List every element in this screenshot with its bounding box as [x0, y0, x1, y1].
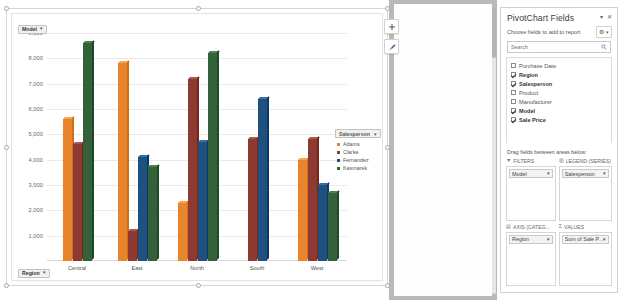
filters-area-icon: ▼ — [506, 158, 511, 163]
bar[interactable] — [188, 79, 197, 261]
field-label: Manufacturer — [519, 99, 552, 105]
area-field-pill[interactable]: Model▾ — [509, 169, 553, 178]
field-checkbox[interactable] — [511, 90, 516, 95]
field-checkbox[interactable] — [511, 99, 516, 104]
field-list-item[interactable]: Model — [507, 106, 611, 115]
bar-face — [83, 43, 92, 261]
resize-handle-middle-right[interactable] — [385, 145, 390, 150]
bar[interactable] — [208, 53, 217, 261]
bar[interactable] — [148, 167, 157, 261]
y-axis-tick-label: 6,000 — [29, 106, 44, 112]
pane-subtitle-text: Choose fields to add to report — [507, 29, 580, 35]
resize-handle-bottom-right[interactable] — [385, 283, 390, 288]
field-checkbox[interactable] — [511, 81, 516, 86]
bar[interactable] — [328, 193, 337, 261]
minimize-icon[interactable]: ▾ — [600, 14, 603, 20]
y-axis-tick-label: 7,000 — [29, 81, 44, 87]
y-axis-tick-label: 1,000 — [29, 233, 44, 239]
area-field-pill-label: Salesperson — [565, 171, 595, 177]
chevron-down-icon: ▾ — [603, 171, 606, 176]
chart-filter-button-region[interactable]: Region ▾ — [18, 269, 50, 278]
pivotchart-fields-pane: PivotChart Fields ▾ ✕ Choose fields to a… — [500, 7, 618, 293]
bar-face — [198, 142, 207, 261]
bar[interactable] — [318, 185, 327, 261]
resize-handle-bottom-left[interactable] — [4, 283, 9, 288]
bar[interactable] — [298, 160, 307, 261]
search-wrapper — [501, 41, 617, 57]
area-values[interactable]: ΣVALUESSum of Sale P...▾ — [559, 224, 612, 287]
resize-handle-top-center[interactable] — [196, 6, 201, 11]
chart-styles-button[interactable] — [384, 39, 399, 54]
chart-filter-region-label: Region — [22, 271, 40, 276]
bar[interactable] — [308, 139, 317, 261]
bar[interactable] — [258, 99, 267, 261]
bar-face — [73, 144, 82, 261]
x-axis-tick-label: South — [250, 265, 265, 271]
bar[interactable] — [73, 144, 82, 261]
field-list: Purchase DateRegionSalespersonProductMan… — [506, 57, 612, 143]
field-checkbox[interactable] — [511, 72, 516, 77]
area-legend[interactable]: ▥LEGEND (SERIES)Salesperson▾ — [559, 158, 612, 221]
pane-tools-button[interactable]: ⚙ ▾ — [596, 26, 612, 38]
area-drop-zone[interactable]: Model▾ — [506, 166, 556, 221]
bar[interactable] — [198, 142, 207, 261]
bar[interactable] — [248, 139, 257, 261]
field-list-item[interactable]: Sale Price — [507, 115, 611, 124]
field-checkbox[interactable] — [511, 63, 516, 68]
field-list-item[interactable]: Manufacturer — [507, 97, 611, 106]
chart-elements-button[interactable] — [384, 19, 399, 34]
bar[interactable] — [118, 63, 127, 261]
legend-item-label: Kasmarek — [343, 165, 367, 171]
field-list-item[interactable]: Salesperson — [507, 79, 611, 88]
field-list-item[interactable]: Purchase Date — [507, 61, 611, 70]
resize-handle-top-left[interactable] — [4, 6, 9, 11]
bar-face — [63, 119, 72, 261]
bar-side — [157, 164, 159, 260]
chart-float-buttons — [384, 19, 399, 54]
field-checkbox[interactable] — [511, 117, 516, 122]
field-list-item[interactable]: Region — [507, 70, 611, 79]
bar[interactable] — [128, 231, 137, 261]
bar[interactable] — [178, 203, 187, 261]
legend-filter-button-salesperson[interactable]: Salesperson ▾ — [335, 129, 381, 138]
area-field-pill[interactable]: Region▾ — [509, 235, 553, 244]
y-axis-tick-label: 5,000 — [29, 131, 44, 137]
bar-side — [337, 190, 339, 260]
resize-handle-bottom-center[interactable] — [196, 283, 201, 288]
resize-handle-middle-left[interactable] — [4, 145, 9, 150]
pane-subtitle-row: Choose fields to add to report ⚙ ▾ — [501, 25, 617, 41]
area-header: ▼FILTERS — [506, 158, 556, 164]
area-axis[interactable]: ▤AXIS (CATEG...Region▾ — [506, 224, 556, 287]
pivotchart-object[interactable]: Model ▾ Region ▾ — [6, 8, 388, 286]
area-drop-zone[interactable]: Salesperson▾ — [559, 166, 612, 221]
x-axis-tick-label: Central — [68, 265, 86, 271]
excel-pivotchart-screen: Model ▾ Region ▾ — [0, 0, 624, 300]
area-drop-zone[interactable]: Sum of Sale P...▾ — [559, 232, 612, 287]
bar[interactable] — [138, 157, 147, 261]
bar-face — [188, 79, 197, 261]
chart-filter-button-model[interactable]: Model ▾ — [18, 25, 47, 34]
field-checkbox[interactable] — [511, 108, 516, 113]
bar[interactable] — [83, 43, 92, 261]
area-filters[interactable]: ▼FILTERSModel▾ — [506, 158, 556, 221]
close-icon[interactable]: ✕ — [607, 14, 612, 20]
legend-item: Clarke — [335, 148, 381, 156]
search-box[interactable] — [507, 41, 611, 53]
legend-item-label: Fernandez — [343, 157, 369, 163]
chevron-down-icon: ▾ — [603, 237, 606, 242]
bar[interactable] — [63, 119, 72, 261]
area-field-pill[interactable]: Sum of Sale P...▾ — [562, 235, 609, 244]
field-label: Salesperson — [519, 81, 552, 87]
bar-group: North — [167, 33, 227, 261]
area-field-pill[interactable]: Salesperson▾ — [562, 169, 609, 178]
vertical-scrollbar[interactable] — [492, 6, 496, 294]
pane-header-buttons: ▾ ✕ — [600, 13, 612, 20]
area-label: VALUES — [564, 224, 584, 230]
legend-item: Kasmarek — [335, 164, 381, 172]
chevron-down-icon: ▾ — [40, 27, 43, 32]
resize-handle-top-right[interactable] — [385, 6, 390, 11]
area-drop-zone[interactable]: Region▾ — [506, 232, 556, 287]
field-list-item[interactable]: Product — [507, 88, 611, 97]
vertical-scrollbar-thumb[interactable] — [492, 6, 496, 58]
search-input[interactable] — [511, 44, 597, 50]
